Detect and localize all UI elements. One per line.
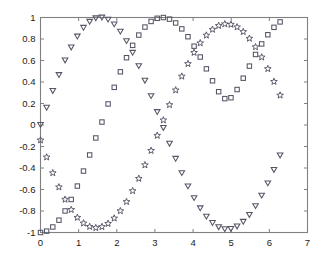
x-tick-label: 7 xyxy=(305,237,310,248)
x-tick-label: 2 xyxy=(114,237,119,248)
y-tick-label: 0.8 xyxy=(22,33,35,44)
figure-container: 01234567 -1-0.8-0.6-0.4-0.200.20.40.60.8… xyxy=(0,0,322,268)
y-tick-label: 0 xyxy=(30,119,35,130)
y-tick-label: 1 xyxy=(30,12,35,23)
x-tick-label: 5 xyxy=(229,237,234,248)
y-tick-label: -1 xyxy=(27,227,35,238)
y-tick-label: 0.2 xyxy=(22,98,35,109)
y-tick-label: -0.4 xyxy=(19,162,35,173)
y-tick-label: -0.6 xyxy=(19,184,35,195)
scatter-plot: 01234567 -1-0.8-0.6-0.4-0.200.20.40.60.8… xyxy=(0,0,322,268)
x-tick-label: 3 xyxy=(152,237,157,248)
y-tick-label: -0.2 xyxy=(19,141,35,152)
y-tick-label: 0.4 xyxy=(22,76,35,87)
y-tick-label: 0.6 xyxy=(22,55,35,66)
x-tick-label: 4 xyxy=(190,237,195,248)
x-tick-label: 6 xyxy=(267,237,272,248)
y-tick-label: -0.8 xyxy=(19,205,35,216)
x-tick-label: 0 xyxy=(38,237,43,248)
x-tick-label: 1 xyxy=(76,237,81,248)
